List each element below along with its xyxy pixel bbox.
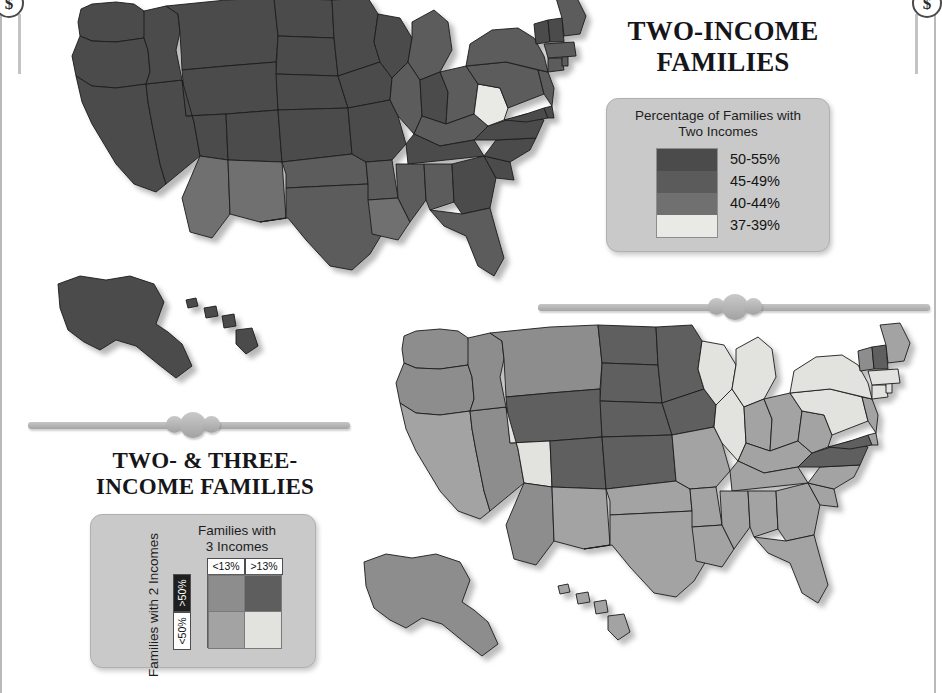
state-hawaii-3	[222, 314, 236, 328]
legend-column-axis-title: Families with 3 Incomes	[91, 515, 315, 556]
row-header-1: <50%	[173, 612, 191, 650]
title-line-1: TWO-INCOME	[598, 16, 848, 47]
legend-caption: Percentage of Families with Two Incomes	[607, 99, 829, 141]
state-oregon	[72, 36, 150, 88]
state-hawaii-3	[594, 600, 608, 614]
state-arizona	[506, 483, 554, 565]
legend-label-0: 50-55%	[730, 148, 780, 170]
state-wyoming	[506, 389, 602, 443]
legend-swatch-3	[657, 215, 717, 237]
state-southdakota	[276, 36, 338, 76]
legend-row-headers: >50% <50%	[173, 574, 189, 650]
matrix-cell-0-1	[244, 575, 282, 613]
state-montana	[166, 0, 278, 70]
row-header-1-text: <50%	[176, 617, 188, 644]
title-line-1: TWO- & THREE-	[64, 448, 346, 474]
state-michigan	[408, 10, 452, 80]
state-vermont	[534, 20, 550, 44]
state-idaho	[468, 333, 506, 411]
matrix-cell-1-0	[208, 611, 246, 649]
matrix-cell-1-1	[244, 611, 282, 649]
legend-swatch-1	[657, 171, 717, 193]
divider-ornament-left	[28, 412, 350, 438]
legend-two-income: Percentage of Families with Two Incomes …	[606, 98, 830, 252]
state-massachusetts	[544, 42, 576, 58]
legend-label-2: 40-44%	[730, 192, 780, 214]
legend-label-column: 50-55% 45-49% 40-44% 37-39%	[730, 148, 780, 238]
state-hawaii-1	[186, 298, 198, 308]
two-and-three-income-choropleth-map	[346, 314, 942, 693]
legend-caption-line-2: Two Incomes	[619, 124, 817, 140]
state-arkansas	[366, 160, 398, 200]
state-nebraska	[276, 74, 348, 110]
state-vermont	[858, 347, 874, 371]
column-header-1: >13%	[245, 558, 283, 575]
column-header-0: <13%	[207, 558, 245, 575]
state-newmexico	[552, 487, 610, 549]
legend-caption-line-1: Percentage of Families with	[619, 108, 817, 124]
legend-column-headers: <13% >13%	[207, 558, 283, 575]
row-header-0: >50%	[173, 574, 191, 612]
divider-dot-right	[203, 416, 220, 433]
legend-two-and-three-income: Families with 3 Incomes Families with 2 …	[90, 514, 316, 668]
state-alabama	[424, 164, 454, 210]
state-michigan	[732, 337, 776, 407]
row-axis-line-1: Families with	[146, 599, 162, 677]
state-northdakota	[598, 325, 658, 365]
state-alaska	[364, 554, 498, 656]
state-arkansas	[690, 487, 722, 527]
state-colorado	[550, 437, 606, 489]
state-montana	[490, 325, 602, 397]
state-massachusetts	[868, 369, 900, 385]
state-hawaii-2	[576, 592, 590, 604]
state-hawaii-4	[608, 614, 630, 640]
state-southdakota	[600, 363, 662, 403]
legend-matrix-body: Families with 2 Incomes <13% >13% >50% <…	[91, 560, 315, 664]
state-hawaii-1	[558, 584, 570, 594]
legend-swatch-column	[656, 148, 718, 238]
corner-stem-right	[915, 14, 918, 74]
title-line-2: FAMILIES	[598, 47, 848, 78]
legend-matrix-grid	[207, 574, 281, 648]
state-newhampshire	[872, 345, 888, 369]
matrix-cell-0-0	[208, 575, 246, 613]
state-hawaii-2	[204, 306, 218, 318]
divider-ornament-right	[538, 294, 930, 320]
state-northdakota	[274, 0, 334, 38]
state-washington	[402, 329, 470, 369]
state-newhampshire	[548, 18, 564, 42]
row-axis-line-2: 2 Incomes	[146, 533, 162, 595]
column-axis-line-2: 3 Incomes	[159, 539, 315, 555]
legend-swatch-2	[657, 193, 717, 215]
column-axis-line-1: Families with	[159, 523, 315, 539]
state-kansas	[602, 435, 676, 489]
state-colorado	[226, 110, 282, 162]
page-title-two-and-three-income: TWO- & THREE- INCOME FAMILIES	[64, 448, 346, 500]
state-alabama	[748, 491, 778, 537]
title-line-2: INCOME FAMILIES	[64, 474, 346, 500]
page-title-two-income: TWO-INCOME FAMILIES	[598, 16, 848, 78]
divider-dot-right	[745, 298, 762, 315]
state-rhodeisland	[886, 383, 892, 393]
state-florida	[430, 208, 504, 276]
state-wyoming	[182, 62, 278, 116]
row-header-0-text: >50%	[176, 579, 188, 606]
state-arizona	[182, 156, 230, 238]
legend-label-3: 37-39%	[730, 214, 780, 236]
state-idaho	[144, 6, 182, 84]
state-oregon	[396, 363, 474, 415]
legend-swatch-0	[657, 149, 717, 171]
state-washington	[78, 2, 146, 42]
state-newmexico	[228, 160, 286, 222]
state-hawaii-4	[236, 328, 258, 354]
legend-entries: 50-55% 45-49% 40-44% 37-39%	[607, 148, 829, 238]
state-florida	[754, 535, 828, 603]
state-nebraska	[600, 401, 672, 437]
legend-label-1: 45-49%	[730, 170, 780, 192]
state-alaska	[58, 276, 192, 378]
state-kansas	[278, 108, 352, 162]
state-rhodeisland	[562, 56, 568, 66]
